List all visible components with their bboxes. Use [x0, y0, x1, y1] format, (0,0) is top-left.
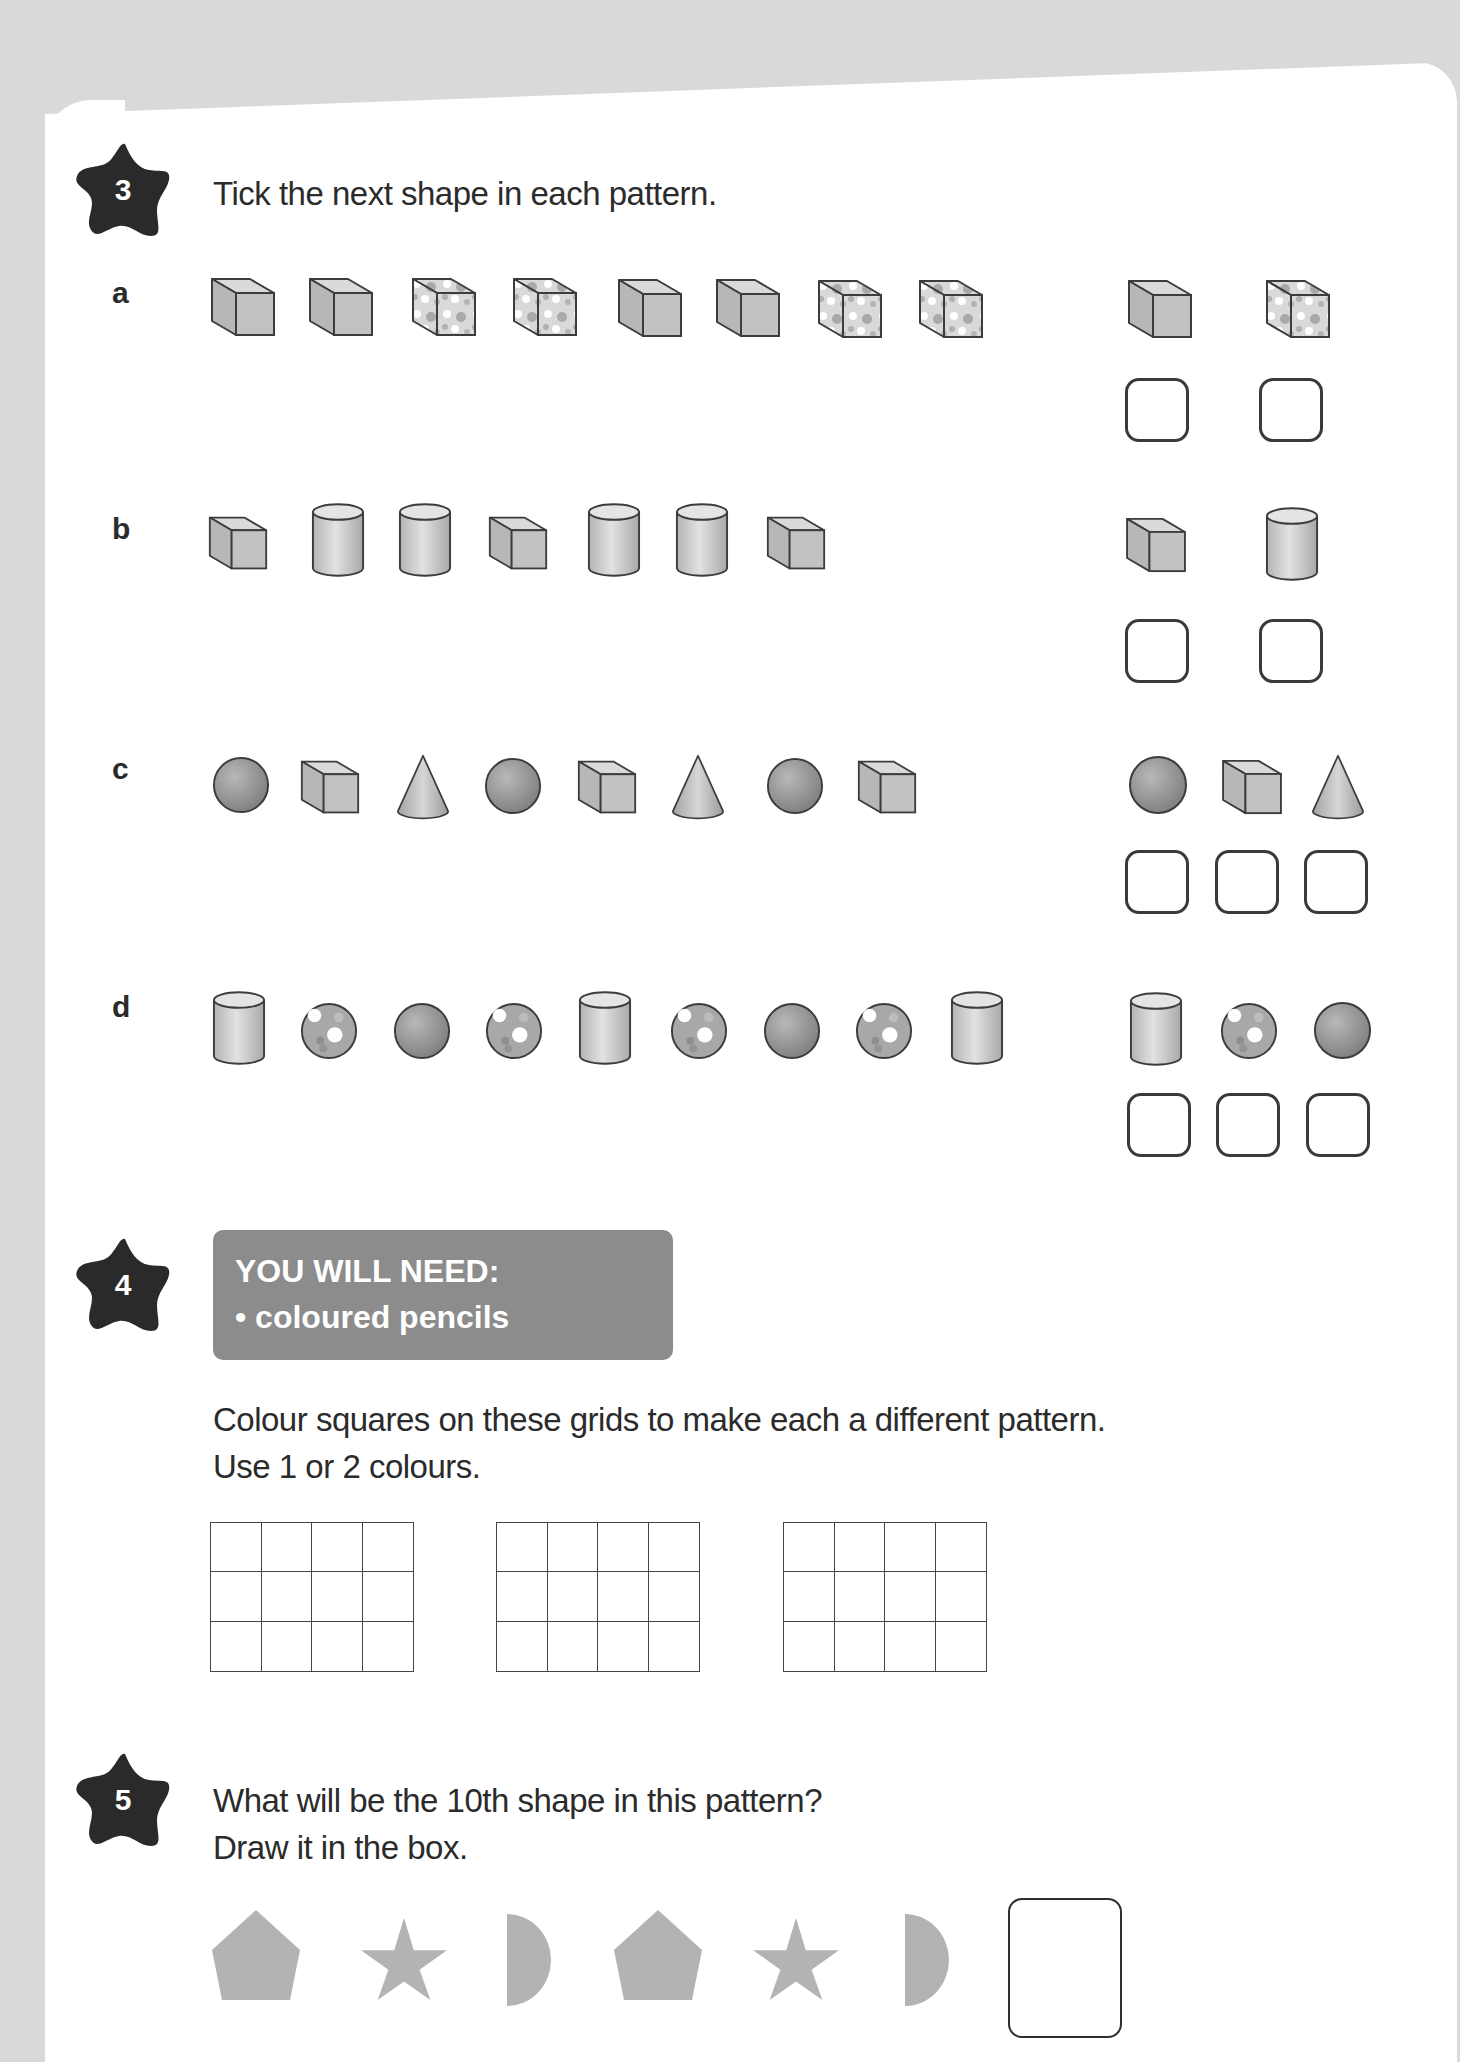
plain-cube-icon	[715, 278, 781, 338]
cube-icon	[300, 759, 360, 815]
grid-cell[interactable]	[211, 1622, 262, 1671]
grid-cell[interactable]	[649, 1523, 700, 1572]
option-cube-icon	[1220, 759, 1284, 815]
question-3-badge: 3	[73, 140, 173, 240]
grid-cell[interactable]	[835, 1572, 886, 1621]
grid-cell[interactable]	[885, 1523, 936, 1572]
grid-cell[interactable]	[363, 1572, 414, 1621]
option-sphere-icon	[1128, 755, 1188, 815]
grid-cell[interactable]	[885, 1622, 936, 1671]
grid-cell[interactable]	[497, 1622, 548, 1671]
cone-icon	[393, 754, 453, 820]
option-spotted-sphere-icon	[1220, 1002, 1278, 1060]
grid-cell[interactable]	[363, 1523, 414, 1572]
grid-cell[interactable]	[936, 1523, 987, 1572]
spotted-cube-icon	[817, 279, 883, 339]
sphere-icon	[212, 756, 270, 814]
tick-box-c-2[interactable]	[1215, 850, 1279, 914]
row-label-b: b	[112, 512, 130, 546]
option-plain-sphere-icon	[1313, 1001, 1372, 1060]
prompt-line-1: What will be the 10th shape in this patt…	[213, 1777, 822, 1824]
sphere-icon	[766, 757, 824, 815]
pentagon-icon	[210, 1910, 302, 2000]
grid-cell[interactable]	[936, 1572, 987, 1621]
tick-box-c-1[interactable]	[1125, 850, 1189, 914]
tick-box-a-1[interactable]	[1125, 378, 1189, 442]
grid-cell[interactable]	[548, 1523, 599, 1572]
star-shape-icon	[752, 1918, 840, 2000]
grid-cell[interactable]	[784, 1622, 835, 1671]
cube-icon	[208, 515, 268, 571]
grid-cell[interactable]	[598, 1622, 649, 1671]
tick-box-a-2[interactable]	[1259, 378, 1323, 442]
plain-cube-icon	[617, 278, 683, 338]
grid-cell[interactable]	[835, 1622, 886, 1671]
grid-cell[interactable]	[497, 1523, 548, 1572]
grid-cell[interactable]	[548, 1572, 599, 1621]
plain-sphere-icon	[763, 1002, 821, 1060]
answer-draw-box[interactable]	[1008, 1898, 1122, 2038]
cube-icon	[488, 515, 548, 571]
grid-cell[interactable]	[548, 1622, 599, 1671]
tick-box-d-3[interactable]	[1306, 1093, 1370, 1157]
plain-sphere-icon	[393, 1002, 451, 1060]
grid-cell[interactable]	[784, 1572, 835, 1621]
cube-icon	[766, 515, 826, 571]
option-cylinder-icon	[1265, 506, 1319, 582]
tick-box-d-2[interactable]	[1216, 1093, 1280, 1157]
grid-cell[interactable]	[262, 1523, 313, 1572]
instruction-line-1: Colour squares on these grids to make ea…	[213, 1396, 1105, 1443]
grid-cell[interactable]	[262, 1622, 313, 1671]
cylinder-icon	[311, 502, 365, 578]
question-5-badge: 5	[73, 1750, 173, 1850]
tick-box-c-3[interactable]	[1304, 850, 1368, 914]
star-shape-icon	[360, 1918, 448, 2000]
cone-icon	[668, 754, 728, 820]
question-5-prompt: What will be the 10th shape in this patt…	[213, 1777, 822, 1871]
grid-cell[interactable]	[784, 1523, 835, 1572]
grid-cell[interactable]	[262, 1572, 313, 1621]
grid-cell[interactable]	[363, 1622, 414, 1671]
grid-cell[interactable]	[598, 1572, 649, 1621]
option-cone-icon	[1308, 754, 1368, 820]
question-3-prompt: Tick the next shape in each pattern.	[213, 170, 717, 217]
tick-box-d-1[interactable]	[1127, 1093, 1191, 1157]
prompt-line-2: Draw it in the box.	[213, 1824, 822, 1871]
option-cylinder-icon	[1129, 991, 1183, 1067]
colouring-grid-2[interactable]	[496, 1522, 700, 1672]
banner-item: • coloured pencils	[235, 1294, 673, 1340]
grid-cell[interactable]	[211, 1572, 262, 1621]
grid-cell[interactable]	[649, 1572, 700, 1621]
grid-cell[interactable]	[497, 1572, 548, 1621]
grid-cell[interactable]	[598, 1523, 649, 1572]
grid-cell[interactable]	[211, 1523, 262, 1572]
colouring-grid-1[interactable]	[210, 1522, 414, 1672]
question-number: 4	[73, 1235, 173, 1335]
tick-box-b-2[interactable]	[1259, 619, 1323, 683]
grid-cell[interactable]	[885, 1572, 936, 1621]
colouring-grid-3[interactable]	[783, 1522, 987, 1672]
grid-cell[interactable]	[312, 1523, 363, 1572]
cube-icon	[577, 759, 637, 815]
cube-icon	[857, 759, 917, 815]
sphere-icon	[484, 757, 542, 815]
instruction-line-2: Use 1 or 2 colours.	[213, 1443, 1105, 1490]
grid-cell[interactable]	[835, 1523, 886, 1572]
semicircle-icon	[905, 1914, 949, 2004]
option-plain-cube-icon	[1127, 279, 1193, 339]
grid-cell[interactable]	[649, 1622, 700, 1671]
cylinder-icon	[398, 502, 452, 578]
plain-cube-icon	[210, 277, 276, 337]
semicircle-icon	[507, 1914, 551, 2004]
question-number: 3	[73, 140, 173, 240]
row-label-c: c	[112, 752, 129, 786]
cylinder-icon	[578, 990, 632, 1066]
grid-cell[interactable]	[936, 1622, 987, 1671]
spotted-sphere-icon	[485, 1002, 543, 1060]
grid-cell[interactable]	[312, 1572, 363, 1621]
cylinder-icon	[675, 502, 729, 578]
grid-cell[interactable]	[312, 1622, 363, 1671]
you-will-need-banner: YOU WILL NEED: • coloured pencils	[213, 1230, 673, 1360]
plain-cube-icon	[308, 277, 374, 337]
tick-box-b-1[interactable]	[1125, 619, 1189, 683]
